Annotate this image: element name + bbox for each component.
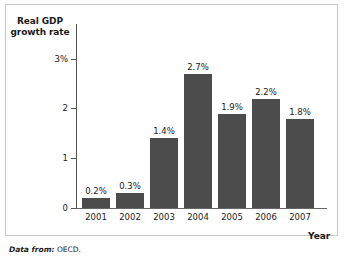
y-tick-label-2: 2: [28, 104, 68, 113]
bar-2002[interactable]: [116, 193, 144, 208]
source-note-value: OECD.: [57, 245, 81, 254]
y-tick-label-3: 3%: [28, 55, 68, 64]
chart-figure: Real GDP growth rate 3% 2 1 0 0.2% 0.3% …: [0, 0, 349, 263]
bar-label-2003: 1.4%: [147, 126, 181, 136]
y-tick-mark-2: [71, 108, 77, 109]
bar-2001[interactable]: [82, 198, 110, 208]
x-tick-label-2007: 2007: [283, 212, 317, 222]
bar-2005[interactable]: [218, 114, 246, 208]
y-tick-mark-3: [71, 59, 77, 60]
x-tick-label-2005: 2005: [215, 212, 249, 222]
bar-label-2004: 2.7%: [181, 62, 215, 72]
bar-2007[interactable]: [286, 119, 314, 208]
x-tick-label-2006: 2006: [249, 212, 283, 222]
y-tick-label-1: 1: [28, 154, 68, 163]
bar-label-2007: 1.8%: [283, 107, 317, 117]
source-note-lead: Data from:: [9, 245, 54, 254]
bar-label-2002: 0.3%: [113, 181, 147, 191]
bar-2004[interactable]: [184, 74, 212, 208]
bar-2003[interactable]: [150, 138, 178, 208]
y-axis-line: [76, 24, 77, 209]
y-tick-mark-1: [71, 158, 77, 159]
x-tick-label-2004: 2004: [181, 212, 215, 222]
source-note: Data from: OECD.: [9, 245, 81, 254]
y-axis-title: Real GDP growth rate: [8, 16, 72, 38]
bar-label-2001: 0.2%: [79, 186, 113, 196]
y-tick-mark-0: [71, 208, 77, 209]
bar-2006[interactable]: [252, 99, 280, 208]
y-tick-label-0: 0: [28, 204, 68, 213]
x-tick-label-2003: 2003: [147, 212, 181, 222]
plot-area: Real GDP growth rate 3% 2 1 0 0.2% 0.3% …: [0, 0, 349, 263]
x-axis-title: Year: [288, 231, 330, 242]
x-tick-label-2002: 2002: [113, 212, 147, 222]
x-tick-label-2001: 2001: [79, 212, 113, 222]
bar-label-2006: 2.2%: [249, 87, 283, 97]
x-axis-line: [76, 208, 327, 209]
bar-label-2005: 1.9%: [215, 102, 249, 112]
